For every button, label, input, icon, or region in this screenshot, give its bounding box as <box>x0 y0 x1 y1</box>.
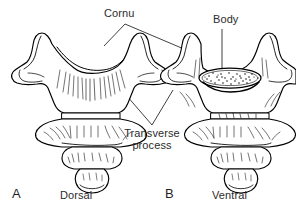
panel-caption-ventral: Ventral <box>212 189 247 201</box>
label-transverse-process-line2: process <box>132 139 171 151</box>
label-body: Body <box>213 13 238 25</box>
label-cornu: Cornu <box>104 7 134 19</box>
anatomy-figure: Cornu Body Transverse process A Dorsal B… <box>0 0 296 212</box>
label-transverse-process: Transverse process <box>112 127 192 151</box>
panel-letter-b: B <box>165 187 174 201</box>
label-transverse-process-line1: Transverse <box>124 127 180 139</box>
vertebra-ventral-view <box>161 33 296 193</box>
panel-letter-a: A <box>12 187 21 201</box>
dorsal-transverse-bar <box>62 113 120 119</box>
vertebra-illustration <box>0 0 296 212</box>
ventral-segment-2 <box>211 147 271 169</box>
vertebra-dorsal-view <box>12 33 171 193</box>
panel-caption-dorsal: Dorsal <box>60 189 92 201</box>
ventral-vertebral-body-oval <box>199 68 261 88</box>
dorsal-neural-arch-outline <box>12 33 171 113</box>
